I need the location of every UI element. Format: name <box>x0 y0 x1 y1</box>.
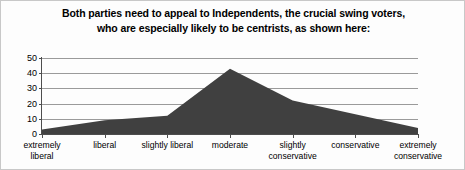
chart-title: Both parties need to appeal to Independe… <box>1 6 465 36</box>
x-tick-label-line: extremely <box>380 140 456 151</box>
x-tick-mark <box>167 134 168 138</box>
y-axis-tick-labels: 01020304050 <box>1 52 37 138</box>
y-tick-mark <box>39 104 42 105</box>
y-tick-label: 20 <box>1 99 37 109</box>
y-tick-label: 40 <box>1 68 37 78</box>
y-tick-mark <box>39 119 42 120</box>
y-tick-mark <box>39 73 42 74</box>
y-tick-mark <box>39 88 42 89</box>
x-tick-mark <box>230 134 231 138</box>
y-axis-line <box>41 57 42 135</box>
area-polygon <box>42 69 418 134</box>
plot-area <box>42 58 418 134</box>
x-tick-mark <box>293 134 294 138</box>
y-tick-label: 10 <box>1 114 37 124</box>
x-tick-label-line: conservative <box>380 151 456 162</box>
y-tick-mark <box>39 58 42 59</box>
x-axis-tick-labels: extremelyliberalliberalslightly liberalm… <box>1 140 465 170</box>
x-tick-mark <box>418 134 419 138</box>
chart-title-line-2: who are especially likely to be centrist… <box>1 21 465 36</box>
x-tick-mark <box>42 134 43 138</box>
y-tick-label: 50 <box>1 53 37 63</box>
x-tick-label-line: conservative <box>255 151 331 162</box>
y-tick-label: 0 <box>1 129 37 139</box>
chart-figure: Both parties need to appeal to Independe… <box>0 0 465 170</box>
y-tick-label: 30 <box>1 83 37 93</box>
x-tick-label-line: liberal <box>4 151 80 162</box>
chart-title-line-1: Both parties need to appeal to Independe… <box>1 6 465 21</box>
area-series <box>42 58 418 134</box>
x-tick-mark <box>355 134 356 138</box>
x-tick-mark <box>105 134 106 138</box>
x-tick-label: extremelyconservative <box>380 140 456 161</box>
